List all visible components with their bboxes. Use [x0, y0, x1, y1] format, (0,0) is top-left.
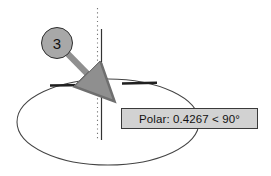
- polar-tooltip-text: Polar: 0.4267 < 90°: [139, 113, 240, 125]
- callout-bubble-label: 3: [53, 35, 61, 52]
- polar-tracking-tooltip: Polar: 0.4267 < 90°: [121, 108, 258, 129]
- major-axis-tick-right: [122, 83, 157, 84]
- callout-arrow: [66, 52, 92, 79]
- major-axis-tick-left: [50, 85, 88, 86]
- callout-bubble-3: 3: [41, 27, 73, 59]
- x-snap-marker-icon: [93, 78, 107, 92]
- cad-drawing-scene: [0, 0, 271, 176]
- drawing-canvas: 3 Polar: 0.4267 < 90°: [0, 0, 271, 176]
